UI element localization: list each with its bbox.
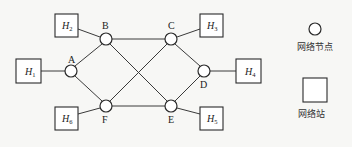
edge-c-d — [175, 44, 200, 66]
node-f: F — [100, 100, 112, 125]
host-h3: H3 — [200, 14, 223, 37]
edge-a-f — [75, 76, 102, 101]
host-h5: H5 — [200, 107, 223, 130]
node-label-e: E — [168, 114, 174, 125]
edge-a-b — [75, 44, 102, 66]
node-label-c: C — [168, 20, 175, 31]
edge-h6-f — [78, 108, 100, 114]
host-h2: H2 — [55, 14, 78, 37]
host-h4: H4 — [236, 59, 261, 83]
legend-node-icon — [309, 23, 321, 35]
node-label-b: B — [102, 20, 109, 31]
host-h6: H6 — [55, 107, 78, 130]
node-b: B — [100, 20, 112, 45]
edge-h5-e — [177, 108, 200, 114]
node-d: D — [198, 65, 210, 90]
node-e: E — [165, 100, 177, 125]
legend-node-label: 网络节点 — [297, 41, 333, 52]
node-label-f: F — [102, 114, 108, 125]
legend-host-label: 网络站 — [298, 108, 325, 119]
node-c: C — [165, 20, 177, 45]
edge-e-d — [175, 76, 200, 101]
node-label-d: D — [200, 79, 207, 90]
network-diagram: H1 H2 H3 H4 H5 H6 A B C D E F — [0, 0, 352, 147]
host-h1: H1 — [16, 59, 41, 83]
edge-h2-b — [78, 29, 100, 37]
node-label-a: A — [68, 54, 76, 65]
edge-h3-c — [177, 29, 200, 37]
legend-host-icon — [303, 78, 327, 102]
legend: 网络节点 网络站 — [297, 23, 333, 119]
